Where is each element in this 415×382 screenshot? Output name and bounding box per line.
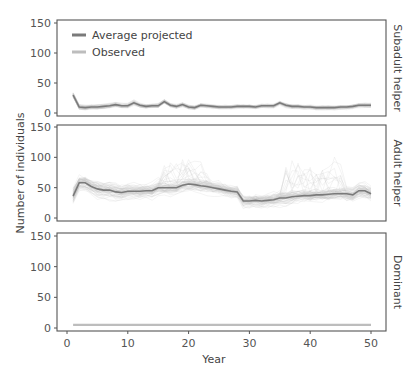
y-tick-label: 50 (37, 77, 51, 90)
y-tick-label: 100 (30, 151, 51, 164)
y-tick-label: 150 (30, 121, 51, 134)
x-tick-label: 30 (242, 337, 256, 350)
panels: 050100150Subadult helper050100150Adult h… (30, 17, 404, 335)
x-tick-label: 0 (64, 337, 71, 350)
y-tick-label: 100 (30, 47, 51, 60)
panel-label: Dominant (391, 255, 404, 310)
legend: Average projected Observed (72, 29, 193, 59)
y-tick-label: 100 (30, 261, 51, 274)
figure: 050100150Subadult helper050100150Adult h… (0, 0, 415, 382)
panel-frame (57, 125, 386, 221)
legend-label-average: Average projected (92, 29, 193, 42)
panel-label: Subadult helper (391, 24, 404, 112)
y-axis-title: Number of individuals (14, 112, 27, 233)
x-tick-label: 10 (121, 337, 135, 350)
panel-frame (57, 233, 386, 331)
x-axis: 01020304050 (64, 331, 379, 350)
y-tick-label: 150 (30, 17, 51, 30)
panel-label: Adult helper (391, 139, 404, 207)
y-tick-label: 50 (37, 182, 51, 195)
y-tick-label: 50 (37, 291, 51, 304)
x-tick-label: 50 (364, 337, 378, 350)
y-tick-label: 0 (44, 212, 51, 225)
y-tick-label: 0 (44, 322, 51, 335)
x-tick-label: 40 (303, 337, 317, 350)
panel-subadult-helper: 050100150Subadult helper (30, 17, 404, 120)
panel-dominant: 050100150Dominant (30, 230, 404, 335)
y-tick-label: 0 (44, 107, 51, 120)
y-tick-label: 150 (30, 230, 51, 243)
x-tick-label: 20 (182, 337, 196, 350)
x-axis-title: Year (201, 353, 226, 366)
legend-label-observed: Observed (92, 46, 145, 59)
ensemble-traces (73, 157, 371, 209)
panel-adult-helper: 050100150Adult helper (30, 121, 404, 225)
